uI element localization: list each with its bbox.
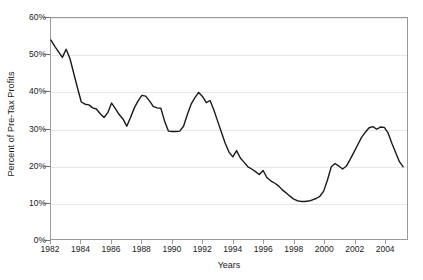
y-tick-label: 30%: [20, 124, 46, 134]
y-axis-tick-labels: 0%10%20%30%40%50%60%: [20, 0, 46, 280]
x-tick-label: 1992: [193, 244, 212, 254]
chart-figure: Percent of Pre-Tax Profits 0%10%20%30%40…: [0, 0, 423, 280]
x-tick-label: 2002: [345, 244, 364, 254]
y-tick-label: 10%: [20, 198, 46, 208]
y-tick-label: 40%: [20, 86, 46, 96]
y-tick-label: 60%: [20, 12, 46, 22]
data-line-series: [51, 18, 407, 239]
y-axis-title: Percent of Pre-Tax Profits: [0, 0, 22, 248]
x-tick-label: 1986: [101, 244, 120, 254]
x-tick-label: 1982: [41, 244, 60, 254]
x-tick-label: 1994: [223, 244, 242, 254]
x-tick-label: 1998: [284, 244, 303, 254]
y-tick-mark: [44, 129, 50, 130]
y-tick-mark: [44, 54, 50, 55]
x-tick-label: 2000: [315, 244, 334, 254]
y-tick-mark: [44, 166, 50, 167]
x-axis-tick-labels: 1982198419861988199019921994199619982000…: [0, 244, 423, 258]
y-tick-label: 50%: [20, 49, 46, 59]
y-tick-label: 20%: [20, 161, 46, 171]
plot-area: [50, 17, 408, 240]
x-tick-label: 1990: [162, 244, 181, 254]
y-tick-mark: [44, 17, 50, 18]
line-path: [51, 40, 403, 201]
x-tick-label: 1984: [71, 244, 90, 254]
y-axis-title-text: Percent of Pre-Tax Profits: [6, 71, 16, 176]
x-tick-label: 2004: [376, 244, 395, 254]
x-axis-title: Years: [50, 260, 408, 270]
x-tick-label: 1996: [254, 244, 273, 254]
y-tick-mark: [44, 91, 50, 92]
y-tick-mark: [44, 203, 50, 204]
x-tick-label: 1988: [132, 244, 151, 254]
